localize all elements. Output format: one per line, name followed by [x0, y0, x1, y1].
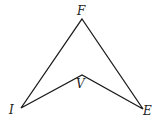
vertex-label-v: V — [76, 77, 86, 91]
vertex-label-i: I — [8, 103, 14, 117]
vertex-label-f: F — [76, 4, 86, 18]
arrowhead-diagram: F V I E — [0, 0, 159, 136]
quadrilateral-FEVI — [21, 19, 143, 109]
vertex-label-e: E — [142, 104, 152, 118]
